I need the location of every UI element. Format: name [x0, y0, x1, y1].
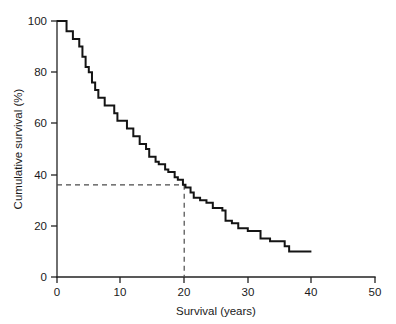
x-tick-label-50: 50: [369, 286, 382, 298]
x-tick-label-0: 0: [54, 286, 60, 298]
y-tick-label-40: 40: [34, 169, 47, 181]
y-axis-title: Cumulative survival (%): [12, 88, 24, 209]
chart-svg: 100 80 60 40 20 0 0 10 20 30 40 50 Survi…: [0, 0, 396, 324]
y-tick-label-0: 0: [41, 271, 47, 283]
x-tick-label-10: 10: [114, 286, 127, 298]
x-tick-label-40: 40: [305, 286, 318, 298]
x-tick-label-20: 20: [178, 286, 191, 298]
survival-curve-figure: 100 80 60 40 20 0 0 10 20 30 40 50 Survi…: [0, 0, 396, 324]
y-tick-label-20: 20: [34, 220, 47, 232]
y-tick-label-100: 100: [28, 15, 47, 27]
x-axis-title: Survival (years): [176, 305, 256, 317]
y-axis-tick-labels: 100 80 60 40 20 0: [28, 15, 47, 283]
x-axis-tick-labels: 0 10 20 30 40 50: [54, 286, 382, 298]
y-tick-label-80: 80: [34, 66, 47, 78]
x-axis-ticks: [57, 277, 375, 283]
median-reference-dashed-line: [57, 185, 184, 277]
y-axis-ticks: [51, 21, 57, 277]
y-tick-label-60: 60: [34, 117, 47, 129]
x-tick-label-30: 30: [242, 286, 255, 298]
